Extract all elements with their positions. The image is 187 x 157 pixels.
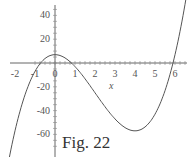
x-tick-label: 3 (113, 68, 118, 79)
y-tick-label: -60 (37, 128, 50, 139)
x-tick-label: 4 (133, 68, 138, 79)
x-tick-label: 0 (53, 68, 58, 79)
x-axis-label: x (108, 80, 114, 91)
x-tick-label: 5 (153, 68, 158, 79)
y-tick-label: -20 (37, 81, 50, 92)
x-tick-label: -2 (11, 68, 19, 79)
y-tick-label: 40 (40, 9, 50, 20)
y-tick-label: -40 (37, 105, 50, 116)
x-tick-label: 6 (173, 68, 178, 79)
x-tick-label: 1 (73, 68, 78, 79)
y-tick-label: 20 (40, 33, 50, 44)
figure-caption: Fig. 22 (62, 133, 110, 153)
x-tick-label: 2 (93, 68, 98, 79)
